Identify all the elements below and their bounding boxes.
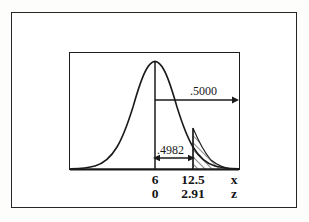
axis-row-x: 6 12.5 x bbox=[69, 172, 254, 187]
z-mean-label: 0 bbox=[145, 186, 165, 202]
figure-root: .5000 .4982 6 12.5 x 0 2.91 z bbox=[0, 0, 309, 222]
z-value-label: 2.91 bbox=[172, 186, 214, 202]
z-axis-name: z bbox=[225, 186, 243, 202]
probability-label-mid: .4982 bbox=[157, 143, 184, 158]
axis-row-z: 0 2.91 z bbox=[69, 186, 254, 201]
probability-label-right: .5000 bbox=[190, 84, 217, 99]
axis-value-table: 6 12.5 x 0 2.91 z bbox=[69, 172, 254, 206]
shaded-tail-region bbox=[192, 126, 238, 171]
